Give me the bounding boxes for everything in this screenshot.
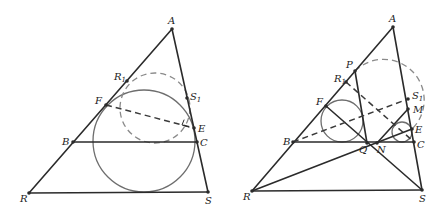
label-c: C (417, 139, 425, 150)
segment-fs (326, 106, 422, 190)
label-f: F (94, 95, 103, 106)
label-n: N (376, 144, 387, 155)
label-e: E (414, 124, 423, 135)
label-a: A (167, 15, 175, 26)
label-b: B (282, 136, 290, 147)
label-s1: S1 (412, 90, 423, 103)
label-p: P (345, 59, 353, 70)
label-q: Q (359, 144, 367, 155)
segment-nm (377, 109, 408, 143)
label-b: B (61, 136, 69, 147)
side-as (172, 29, 208, 192)
dashed-fe (106, 105, 194, 128)
label-f: F (315, 96, 324, 107)
geometry-diagram: A R1 S1 F E B C R S (0, 0, 445, 215)
right-figure: A P R1 S1 M F E B C Q N R S (242, 13, 426, 204)
label-r1: R1 (333, 73, 346, 86)
label-r1: R1 (113, 71, 126, 84)
side-rs (29, 192, 208, 193)
dashed-circle (120, 73, 190, 143)
label-s: S (205, 195, 212, 206)
label-s: S (419, 193, 426, 204)
label-e: E (197, 123, 206, 134)
left-figure: A R1 S1 F E B C R S (19, 15, 212, 206)
dashed-bs1 (293, 99, 408, 142)
side-rs (252, 190, 422, 191)
label-r: R (19, 193, 28, 204)
label-a: A (388, 13, 396, 24)
side-ar (252, 27, 393, 191)
label-m: M (412, 104, 424, 115)
label-s1: S1 (190, 91, 201, 104)
label-c: C (200, 137, 208, 148)
label-r: R (242, 191, 251, 202)
